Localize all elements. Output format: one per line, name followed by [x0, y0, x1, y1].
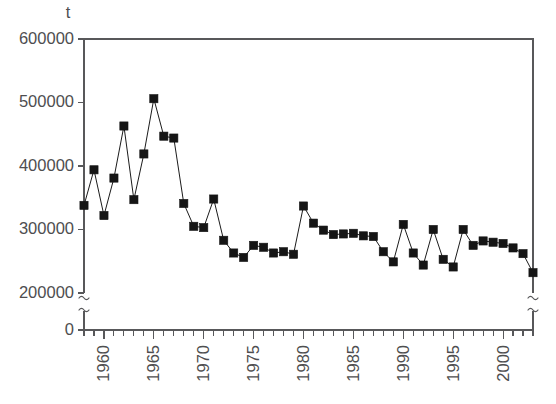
data-point-marker: [289, 250, 297, 258]
y-axis-tick-label: 600000: [19, 29, 74, 47]
data-point-marker: [489, 238, 497, 246]
data-point-marker: [439, 255, 447, 263]
data-point-marker: [269, 249, 277, 257]
plot-frame: [84, 39, 533, 293]
x-axis-tick-label: 1960: [94, 345, 112, 382]
data-point-marker: [230, 249, 238, 257]
data-point-marker: [150, 95, 158, 103]
x-axis-tick-label: 1970: [194, 345, 212, 382]
x-axis-tick-label: 1985: [344, 345, 362, 382]
data-point-marker: [120, 122, 128, 130]
data-point-marker: [170, 134, 178, 142]
data-point-marker: [419, 261, 427, 269]
y-axis-tick-label: 300000: [19, 219, 74, 237]
data-point-marker: [130, 196, 138, 204]
data-point-marker: [140, 150, 148, 158]
y-axis-break-upper-icon: [79, 296, 89, 299]
data-point-marker: [449, 263, 457, 271]
y-axis-tick-label: 400000: [19, 156, 74, 174]
line-chart-plot: 0200000300000400000500000600000t19601965…: [0, 0, 556, 404]
data-point-marker: [409, 249, 417, 257]
y-axis-tick-label: 0: [65, 320, 74, 338]
data-point-marker: [349, 229, 357, 237]
y-axis-unit-label: t: [66, 3, 71, 21]
data-point-marker: [499, 239, 507, 247]
data-point-marker: [190, 222, 198, 230]
right-axis-break-upper-icon: [528, 296, 538, 299]
data-point-marker: [80, 201, 88, 209]
data-point-marker: [519, 250, 527, 258]
data-point-marker: [479, 237, 487, 245]
data-point-marker: [329, 230, 337, 238]
data-point-marker: [180, 199, 188, 207]
data-point-marker: [90, 166, 98, 174]
data-point-marker: [250, 241, 258, 249]
y-axis-tick-label: 200000: [19, 283, 74, 301]
data-point-marker: [110, 174, 118, 182]
data-point-marker: [339, 230, 347, 238]
y-axis-tick-label: 500000: [19, 92, 74, 110]
data-point-marker: [459, 225, 467, 233]
data-point-marker: [100, 211, 108, 219]
x-axis-tick-label: 1980: [294, 345, 312, 382]
data-point-marker: [279, 248, 287, 256]
data-point-marker: [529, 269, 537, 277]
chart-figure: 0200000300000400000500000600000t19601965…: [0, 0, 556, 404]
x-axis-tick-label: 1990: [394, 345, 412, 382]
data-point-marker: [469, 241, 477, 249]
x-axis-tick-label: 1995: [444, 345, 462, 382]
data-point-marker: [319, 226, 327, 234]
data-point-marker: [509, 244, 517, 252]
data-point-marker: [369, 232, 377, 240]
data-point-marker: [260, 243, 268, 251]
data-point-marker: [389, 258, 397, 266]
x-axis-tick-label: 1975: [244, 345, 262, 382]
data-point-marker: [399, 220, 407, 228]
data-point-marker: [240, 253, 248, 261]
data-series-line: [84, 99, 533, 273]
data-point-marker: [359, 232, 367, 240]
data-point-marker: [299, 202, 307, 210]
data-point-marker: [379, 248, 387, 256]
data-point-marker: [160, 132, 168, 140]
data-point-marker: [210, 195, 218, 203]
data-point-marker: [220, 236, 228, 244]
x-axis-tick-label: 2000: [494, 345, 512, 382]
x-axis-tick-label: 1965: [144, 345, 162, 382]
data-point-marker: [429, 225, 437, 233]
data-point-marker: [200, 224, 208, 232]
data-point-marker: [309, 219, 317, 227]
